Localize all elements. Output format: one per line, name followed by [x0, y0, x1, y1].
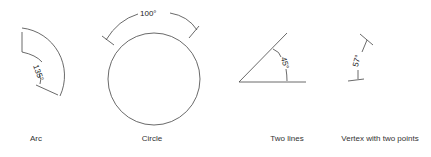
arc-shape [22, 28, 65, 96]
two-lines-caption: Two lines [270, 134, 303, 143]
arc-caption: Arc [30, 134, 42, 143]
circle-figure: 100° [102, 9, 200, 125]
vertex-caption: Vertex with two points [341, 134, 418, 143]
circle-angle-label: 100° [140, 9, 157, 18]
two-lines-angle-label: 45° [279, 56, 291, 70]
vertex-figure: 57° [348, 34, 373, 81]
vertex-angle-label: 57° [351, 54, 363, 68]
circle-shape [108, 33, 200, 125]
arc-dim-line [22, 52, 42, 62]
two-lines-figure: 45° [239, 33, 306, 82]
angle-dimension-diagram: 135° 100° 45° 57° Arc Circle [0, 0, 431, 157]
arc-angle-label: 135° [31, 63, 45, 82]
circle-caption: Circle [142, 134, 162, 143]
arc-figure: 135° [22, 28, 65, 96]
